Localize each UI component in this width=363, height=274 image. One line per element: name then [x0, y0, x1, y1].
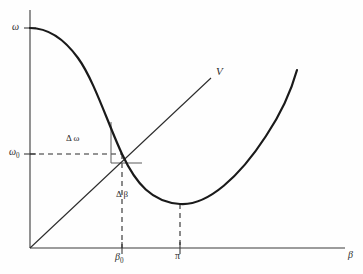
dispersion-curve	[30, 28, 297, 204]
x-tick-label-beta-zero: β0	[115, 252, 124, 265]
y-axis-top-label: ω	[12, 22, 19, 32]
phase-velocity-line	[30, 78, 211, 248]
delta-beta-label: Δ β	[116, 190, 128, 199]
phase-velocity-label: V	[216, 66, 223, 77]
y-axis-omega-zero-label: ω0	[9, 147, 20, 160]
delta-omega-label: Δ ω	[66, 134, 79, 143]
figure-container: ω ω0 Δ ω Δ β V β0 π β	[0, 0, 363, 274]
figure-canvas	[0, 0, 363, 274]
x-tick-label-pi: π	[175, 251, 180, 261]
x-axis-end-label: β	[348, 250, 353, 260]
